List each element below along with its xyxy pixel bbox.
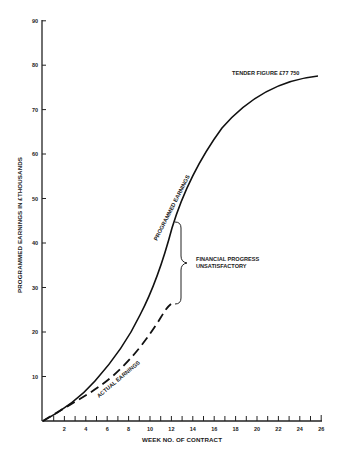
x-tick-label: 24 [297, 426, 304, 432]
actual-earnings-line [43, 304, 171, 421]
y-tick-label: 30 [32, 285, 38, 291]
y-tick-label: 20 [32, 329, 38, 335]
tender-figure-label: TENDER FIGURE £77 750 [232, 70, 299, 76]
financial-progress-label-line2: UNSATISFACTORY [196, 263, 247, 269]
x-tick-label: 12 [168, 426, 174, 432]
axes [42, 20, 322, 421]
x-tick-labels: 2 4 6 8 10 12 14 16 18 20 22 24 26 [63, 426, 324, 432]
y-axis-title: PROGRAMMED EARNINGS IN £THOUSANDS [16, 157, 23, 293]
y-tick-label: 70 [32, 107, 38, 113]
x-tick-label: 6 [106, 426, 109, 432]
x-tick-label: 8 [127, 426, 130, 432]
y-tick-label: 40 [32, 240, 38, 246]
x-tick-label: 14 [190, 426, 197, 432]
y-tick-label: 10 [32, 374, 38, 380]
x-tick-label: 20 [254, 426, 260, 432]
financial-progress-brace [175, 222, 187, 304]
y-tick-label: 80 [32, 62, 38, 68]
y-tick-labels: 90 80 70 60 50 40 30 20 10 [32, 18, 38, 380]
x-tick-label: 16 [211, 426, 217, 432]
x-tick-label: 4 [84, 426, 88, 432]
x-tick-label: 18 [233, 426, 239, 432]
actual-earnings-label: ACTUAL EARNINGS [96, 359, 141, 398]
earnings-chart: 90 80 70 60 50 40 30 20 10 [0, 0, 342, 457]
financial-progress-label-line1: FINANCIAL PROGRESS [196, 256, 260, 262]
x-axis-title: WEEK NO. OF CONTRACT [142, 436, 222, 443]
x-tick-label: 10 [147, 426, 153, 432]
x-ticks [54, 415, 322, 421]
x-tick-label: 26 [318, 426, 324, 432]
x-tick-label: 22 [275, 426, 281, 432]
x-tick-label: 2 [63, 426, 66, 432]
y-tick-label: 60 [32, 151, 38, 157]
y-tick-label: 50 [32, 196, 38, 202]
y-tick-label: 90 [32, 18, 38, 24]
